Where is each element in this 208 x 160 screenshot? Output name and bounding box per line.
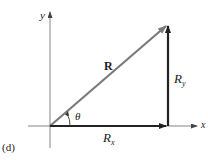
y-component-label-base: R: [174, 71, 182, 86]
x-component-label-base: R: [103, 130, 111, 145]
resultant-label: R: [104, 60, 113, 72]
panel-label: (d): [2, 142, 15, 153]
y-component-label-sub: y: [182, 79, 186, 88]
vector-components-diagram: y x R θ Ry Rx (d): [0, 0, 208, 160]
y-component-label: Ry: [174, 72, 186, 88]
angle-label: θ: [75, 111, 80, 122]
x-axis-label: x: [201, 120, 205, 130]
x-component-label-sub: x: [111, 138, 115, 147]
y-axis-label: y: [40, 10, 45, 21]
resultant-vector-arrow: [50, 26, 166, 126]
x-component-label: Rx: [103, 131, 115, 147]
